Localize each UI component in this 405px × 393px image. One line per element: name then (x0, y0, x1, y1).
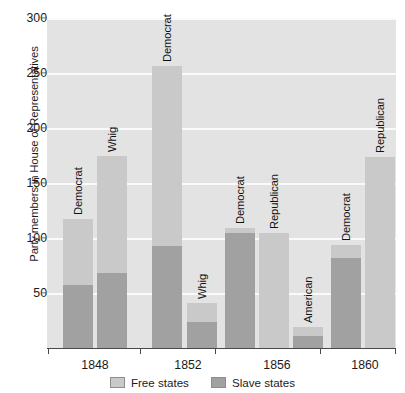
bar-segment-slave-states (293, 336, 323, 348)
y-axis-title: Party members in House of Representative… (28, 24, 40, 284)
bar-1856-democrat[interactable]: Democrat (225, 228, 255, 348)
bar-segment-free-states (63, 219, 93, 285)
y-tick-mark (42, 127, 47, 128)
gridline (47, 73, 396, 75)
y-tick-label: 150 (7, 176, 47, 190)
bar-segment-free-states (187, 303, 217, 322)
bar-1860-democrat[interactable]: Democrat (331, 245, 361, 348)
bar-1852-whig[interactable]: Whig (187, 303, 217, 348)
y-tick-mark (42, 17, 47, 18)
bar-label: American (302, 277, 314, 323)
bar-segment-slave-states (187, 322, 217, 348)
x-axis-line (47, 348, 396, 349)
y-tick-label: 100 (7, 231, 47, 245)
gridline (47, 18, 396, 20)
legend-label: Slave states (232, 376, 295, 389)
gridline (47, 128, 396, 130)
bar-segment-free-states (365, 157, 395, 348)
bar-label: Whig (196, 274, 208, 299)
y-tick-label: 50 (7, 286, 47, 300)
y-tick-label: 200 (7, 121, 47, 135)
bar-chart: Party members in House of Representative… (0, 0, 405, 393)
bar-segment-slave-states (331, 258, 361, 348)
x-tick-mark (215, 348, 216, 354)
legend: Free statesSlave states (0, 376, 405, 389)
plot-area: DemocratWhigDemocratWhigDemocratRepublic… (47, 18, 396, 348)
y-tick-label: 250 (7, 66, 47, 80)
y-tick-mark (42, 72, 47, 73)
legend-swatch (211, 377, 226, 388)
bar-label: Democrat (161, 15, 173, 63)
bar-label: Republican (374, 98, 386, 153)
bar-label: Democrat (72, 168, 84, 216)
bar-1848-democrat[interactable]: Democrat (63, 219, 93, 348)
bar-segment-free-states (293, 327, 323, 336)
bar-segment-free-states (331, 245, 361, 258)
bar-1848-whig[interactable]: Whig (97, 156, 127, 349)
x-tick-label-1856: 1856 (247, 358, 307, 372)
bar-segment-free-states (97, 156, 127, 274)
bar-label: Democrat (340, 193, 352, 241)
bar-segment-slave-states (97, 273, 127, 348)
bar-segment-slave-states (63, 285, 93, 348)
bar-segment-slave-states (225, 233, 255, 349)
x-tick-mark (320, 348, 321, 354)
bar-1856-american[interactable]: American (293, 327, 323, 348)
legend-swatch (110, 377, 125, 388)
x-tick-label-1860: 1860 (335, 358, 395, 372)
y-tick-mark (42, 292, 47, 293)
bar-segment-slave-states (152, 246, 182, 348)
bar-segment-free-states (259, 233, 289, 349)
legend-item-slave-states[interactable]: Slave states (211, 376, 295, 389)
legend-item-free-states[interactable]: Free states (110, 376, 189, 389)
y-tick-mark (42, 237, 47, 238)
y-tick-mark (42, 182, 47, 183)
bar-segment-free-states (152, 66, 182, 245)
x-tick-label-1852: 1852 (158, 358, 218, 372)
x-tick-mark (395, 348, 396, 354)
bar-1856-republican[interactable]: Republican (259, 233, 289, 349)
bar-label: Republican (268, 174, 280, 229)
y-tick-label: 300 (7, 11, 47, 25)
x-tick-mark (48, 348, 49, 354)
bar-label: Whig (106, 126, 118, 151)
legend-label: Free states (131, 376, 189, 389)
bar-label: Democrat (234, 176, 246, 224)
bar-1860-republican[interactable]: Republican (365, 157, 395, 348)
x-tick-label-1848: 1848 (65, 358, 125, 372)
x-tick-mark (140, 348, 141, 354)
bar-1852-democrat[interactable]: Democrat (152, 66, 182, 348)
